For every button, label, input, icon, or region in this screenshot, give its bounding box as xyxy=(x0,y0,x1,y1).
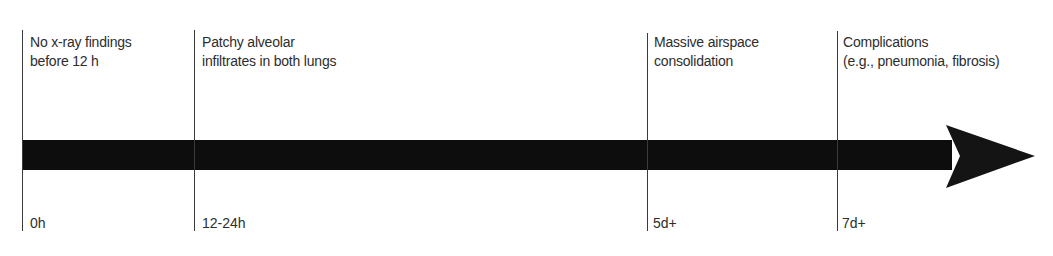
marker-line-7d xyxy=(837,31,838,231)
arrowhead-icon xyxy=(946,125,1035,188)
marker-line-0h xyxy=(22,30,23,231)
event-description-line: No x-ray findings xyxy=(30,33,132,52)
event-description-0h: No x-ray findings before 12 h xyxy=(30,33,132,71)
event-description-line: before 12 h xyxy=(30,52,132,71)
time-label-0h: 0h xyxy=(30,215,46,231)
time-label-5d: 5d+ xyxy=(653,215,677,231)
event-description-7d: Complications (e.g., pneumonia, fibrosis… xyxy=(843,33,999,71)
event-description-line: Complications xyxy=(843,33,999,52)
event-description-line: Massive airspace xyxy=(654,33,759,52)
time-label-12-24h: 12-24h xyxy=(202,215,246,231)
marker-line-12-24h xyxy=(194,30,195,231)
event-description-line: consolidation xyxy=(654,52,759,71)
timeline-bar xyxy=(22,140,952,170)
event-description-12-24h: Patchy alveolar infiltrates in both lung… xyxy=(202,33,336,71)
event-description-line: Patchy alveolar xyxy=(202,33,336,52)
time-label-7d: 7d+ xyxy=(842,215,866,231)
event-description-line: (e.g., pneumonia, fibrosis) xyxy=(843,52,999,71)
event-description-5d: Massive airspace consolidation xyxy=(654,33,759,71)
marker-line-5d xyxy=(647,33,648,231)
event-description-line: infiltrates in both lungs xyxy=(202,52,336,71)
